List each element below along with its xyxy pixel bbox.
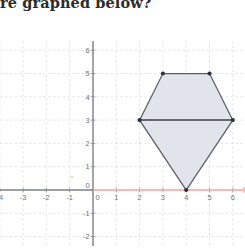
- x-tick-label: 5: [207, 193, 211, 202]
- x-tick-label: 4: [184, 193, 188, 202]
- vertex-point: [184, 188, 188, 192]
- y-tick-label: 3: [85, 116, 89, 125]
- x-tick-label: 0: [96, 193, 100, 202]
- y-tick-label: 0: [85, 181, 89, 190]
- y-tick-label: 5: [85, 69, 89, 78]
- y-tick-label: -2: [83, 232, 90, 241]
- x-tick-label: 6: [231, 193, 235, 202]
- coordinate-plane: -4-3-2-10123456-2-10123456: [0, 12, 245, 250]
- y-tick-label: 1: [85, 162, 89, 171]
- y-tick-label: -1: [83, 209, 90, 218]
- coordinate-plane-svg: -4-3-2-10123456-2-10123456: [0, 12, 245, 250]
- y-tick-label: 2: [85, 139, 89, 148]
- x-tick-label: 1: [114, 193, 118, 202]
- x-tick-label: 3: [161, 193, 165, 202]
- vertex-point: [161, 71, 165, 75]
- graph-question-screenshot: re graphed below? -4-3-2-10123456-2-1012…: [0, 0, 245, 250]
- vertex-point: [138, 118, 142, 122]
- x-tick-label: -2: [43, 193, 50, 202]
- vertex-point: [207, 71, 211, 75]
- kite-polygon: [140, 74, 233, 191]
- y-tick-label: 4: [85, 93, 89, 102]
- x-tick-label: -4: [0, 193, 3, 202]
- x-tick-label: -3: [20, 193, 27, 202]
- vertex-point: [231, 118, 235, 122]
- shapes-group: [140, 74, 233, 191]
- stray-speck: [70, 175, 73, 178]
- y-tick-label: 6: [85, 46, 89, 55]
- x-tick-label: 2: [138, 193, 142, 202]
- x-tick-label: -1: [66, 193, 73, 202]
